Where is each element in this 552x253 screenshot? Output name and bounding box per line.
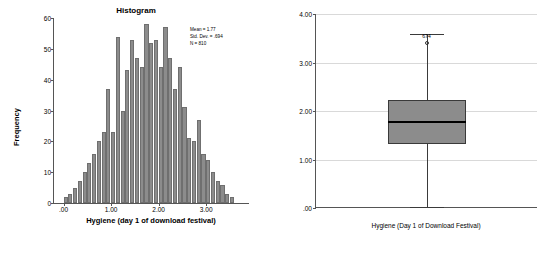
boxplot-y-tick-mark	[313, 14, 316, 15]
histogram-xlabel: Hygiene (day 1 of download festival)	[53, 216, 249, 225]
boxplot-y-tick-label: 4.00	[299, 11, 312, 18]
histogram-bar	[159, 67, 163, 203]
histogram-bar	[230, 197, 234, 203]
histogram-bar	[149, 43, 153, 203]
histogram-bar	[201, 154, 205, 203]
boxplot-y-tick-mark	[313, 208, 316, 209]
histogram-stats-box: Mean = 1.77 Std. Dev. = .694 N = 810	[190, 27, 223, 48]
boxplot-median-line	[388, 121, 466, 123]
histogram-y-tick-label: 30	[44, 107, 51, 114]
histogram-bar	[206, 160, 210, 203]
histogram-x-tick-mark	[64, 203, 65, 206]
boxplot-whisker-cap	[410, 207, 444, 208]
histogram-stat-n: N = 810	[190, 41, 223, 48]
boxplot-outlier-marker	[425, 41, 429, 45]
boxplot-y-tick-label: 2.00	[299, 108, 312, 115]
boxplot-xlabel: Hygiene (Day 1 of Download Festival)	[315, 222, 537, 229]
histogram-bar	[73, 188, 77, 203]
histogram-y-tick-mark	[51, 80, 54, 81]
histogram-y-tick-label: 60	[44, 15, 51, 22]
histogram-y-tick-mark	[51, 111, 54, 112]
histogram-bar	[187, 138, 191, 203]
histogram-bar	[97, 141, 101, 203]
histogram-bar	[78, 181, 82, 203]
boxplot-y-tick-label: .00	[303, 205, 312, 212]
histogram-bar	[192, 141, 196, 203]
histogram-x-tick-mark	[111, 203, 112, 206]
histogram-bar	[225, 194, 229, 203]
boxplot-gridline	[316, 14, 537, 15]
boxplot-y-tick-label: 3.00	[299, 59, 312, 66]
histogram-bar	[106, 89, 110, 203]
histogram-bar	[92, 154, 96, 203]
boxplot-y-tick-mark	[313, 160, 316, 161]
boxplot-outlier-label: 674	[422, 33, 430, 39]
histogram-bar	[121, 111, 125, 204]
histogram-y-tick-label: 50	[44, 45, 51, 52]
histogram-bar	[211, 172, 215, 203]
boxplot-y-tick-mark	[313, 63, 316, 64]
histogram-bar	[135, 58, 139, 203]
histogram-bar	[68, 194, 72, 203]
histogram-panel: Histogram Frequency 0102030405060 .001.0…	[0, 0, 272, 253]
histogram-bar	[83, 172, 87, 203]
histogram-x-tick-label: 1.00	[105, 206, 118, 213]
boxplot-y-tick-label: 1.00	[299, 156, 312, 163]
histogram-bar	[87, 163, 91, 203]
histogram-bar	[154, 40, 158, 203]
histogram-ylabel: Frequency	[12, 108, 21, 146]
histogram-stat-mean: Mean = 1.77	[190, 27, 223, 34]
histogram-bar	[130, 40, 134, 203]
histogram-x-tick-label: 3.00	[200, 206, 213, 213]
histogram-ylabel-holder: Frequency	[10, 0, 24, 253]
histogram-y-tick-label: 10	[44, 169, 51, 176]
chart-figure: Histogram Frequency 0102030405060 .001.0…	[0, 0, 552, 253]
histogram-x-tick-mark	[206, 203, 207, 206]
histogram-bar	[111, 132, 115, 203]
histogram-bar	[220, 185, 224, 204]
histogram-y-tick-mark	[51, 18, 54, 19]
histogram-bar	[168, 58, 172, 203]
histogram-bar	[140, 67, 144, 203]
histogram-bar	[173, 89, 177, 203]
histogram-y-tick-label: 40	[44, 76, 51, 83]
histogram-bar	[116, 37, 120, 204]
histogram-x-tick-mark	[159, 203, 160, 206]
histogram-bar	[197, 120, 201, 203]
histogram-y-tick-mark	[51, 203, 54, 204]
boxplot-y-tick-mark	[313, 111, 316, 112]
histogram-title: Histogram	[0, 6, 272, 15]
histogram-x-tick-label: .00	[59, 206, 68, 213]
histogram-bar	[144, 24, 148, 203]
histogram-y-tick-label: 20	[44, 138, 51, 145]
histogram-bar	[182, 107, 186, 203]
histogram-x-tick-label: 2.00	[152, 206, 165, 213]
histogram-bar	[163, 27, 167, 203]
histogram-y-tick-mark	[51, 172, 54, 173]
histogram-y-tick-mark	[51, 141, 54, 142]
boxplot-plot-area: 4.003.002.001.00.00 674	[315, 14, 537, 208]
boxplot-panel: 4.003.002.001.00.00 674 Hygiene (Day 1 o…	[278, 0, 552, 253]
boxplot-whisker	[427, 144, 428, 207]
histogram-bar	[216, 181, 220, 203]
histogram-bar	[102, 132, 106, 203]
histogram-stat-stddev: Std. Dev. = .694	[190, 34, 223, 41]
histogram-bar	[125, 70, 129, 203]
histogram-y-tick-mark	[51, 49, 54, 50]
histogram-bar	[178, 67, 182, 203]
